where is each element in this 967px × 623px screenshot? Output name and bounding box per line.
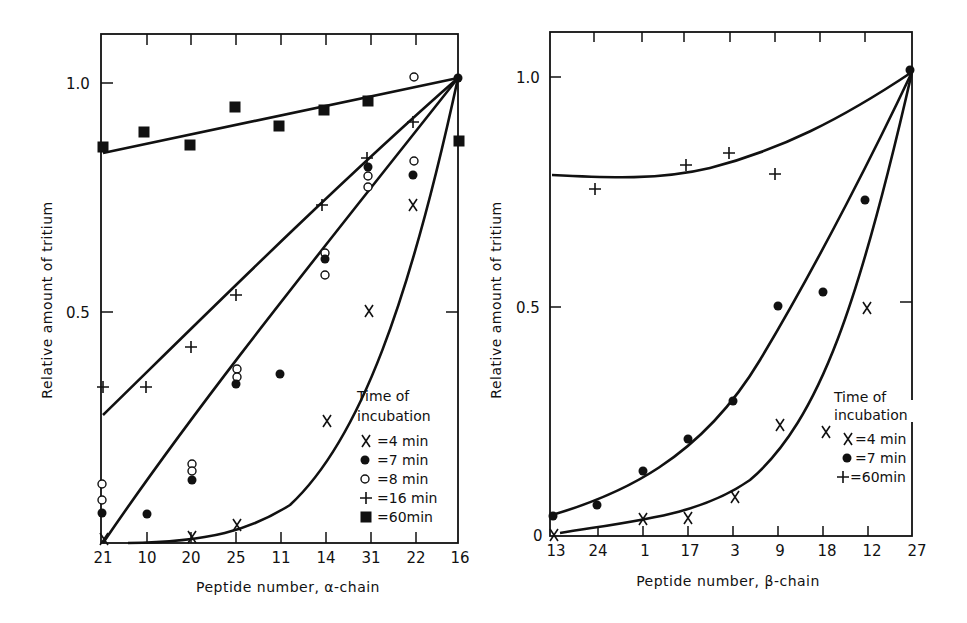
left-xtick: 31 — [361, 549, 380, 567]
curve-60min — [103, 78, 458, 153]
right-legend-60min: =60min — [850, 469, 906, 485]
legend-dot-icon — [361, 456, 370, 465]
left-legend-8min: =8 min — [377, 471, 429, 487]
left-xtick: 20 — [181, 549, 200, 567]
right-legend-4min: =4 min — [855, 431, 907, 447]
right-xtick: 17 — [680, 542, 699, 560]
left-legend-4min: =4 min — [377, 433, 429, 449]
right-bottom-ticks — [598, 526, 868, 536]
left-xtick: 11 — [271, 549, 290, 567]
right-xtick: 18 — [817, 542, 836, 560]
right-chart: 1.0 0.5 0 13 24 1 17 3 9 18 12 27 Peptid… — [488, 32, 927, 589]
legend-x-icon — [844, 433, 852, 445]
series-16min — [97, 116, 419, 393]
left-bottom-ticks — [147, 532, 416, 543]
legend-dot-icon — [843, 454, 852, 463]
right-xtick: 13 — [546, 542, 565, 560]
left-ytick-05: 0.5 — [66, 304, 90, 322]
left-y-ticks — [101, 83, 458, 312]
right-legend-title-2: incubation — [834, 407, 908, 423]
right-ytick-05: 0.5 — [516, 299, 540, 317]
right-legend-7min: =7 min — [855, 450, 907, 466]
left-xtick: 25 — [226, 549, 245, 567]
right-xtick: 3 — [730, 542, 740, 560]
left-ytick-1: 1.0 — [66, 75, 90, 93]
right-top-ticks — [594, 32, 865, 42]
series-8min — [98, 73, 418, 504]
figure: 1.0 0.5 21 10 20 25 11 14 31 22 16 Pepti… — [0, 0, 967, 623]
right-x-axis-label: Peptide number, β-chain — [636, 573, 820, 589]
series-60min — [98, 96, 465, 153]
right-xtick: 9 — [775, 542, 785, 560]
right-xtick: 1 — [640, 542, 650, 560]
legend-square-icon — [361, 512, 372, 523]
left-x-axis-label: Peptide number, α-chain — [196, 579, 380, 595]
legend-plus-icon — [360, 492, 372, 504]
right-xtick: 27 — [907, 542, 926, 560]
left-legend-16min: =16 min — [377, 490, 437, 506]
left-xtick: 22 — [406, 549, 425, 567]
right-xtick-labels: 13 24 1 17 3 9 18 12 27 — [546, 542, 926, 560]
curve-7min — [552, 72, 912, 515]
right-xtick: 24 — [588, 542, 607, 560]
left-xtick-labels: 21 10 20 25 11 14 31 22 16 — [93, 549, 469, 567]
left-legend-title-1: Time of — [356, 388, 410, 404]
right-y-ticks — [550, 77, 912, 307]
right-legend: Time of incubation =4 min =7 min =60min — [833, 389, 908, 485]
curve-60min — [552, 72, 912, 177]
right-ytick-0: 0 — [533, 527, 543, 545]
left-xtick: 16 — [450, 549, 469, 567]
left-legend-7min: =7 min — [377, 452, 429, 468]
right-ytick-1: 1.0 — [516, 69, 540, 87]
left-xtick: 14 — [316, 549, 335, 567]
left-legend: Time of incubation =4 min =7 min =8 min … — [356, 388, 437, 525]
left-xtick: 10 — [137, 549, 156, 567]
legend-plus-icon — [837, 471, 849, 483]
right-xtick: 12 — [862, 542, 881, 560]
left-chart: 1.0 0.5 21 10 20 25 11 14 31 22 16 Pepti… — [39, 34, 470, 595]
left-legend-60min: =60min — [377, 509, 433, 525]
left-y-axis-label: Relative amount of tritium — [39, 201, 55, 398]
left-top-ticks — [147, 34, 416, 45]
legend-x-icon — [362, 435, 370, 447]
legend-ring-icon — [361, 475, 369, 483]
right-y-axis-label: Relative amount of tritium — [488, 201, 504, 398]
left-xtick: 21 — [93, 549, 112, 567]
right-legend-title-1: Time of — [833, 389, 887, 405]
left-legend-title-2: incubation — [357, 408, 431, 424]
